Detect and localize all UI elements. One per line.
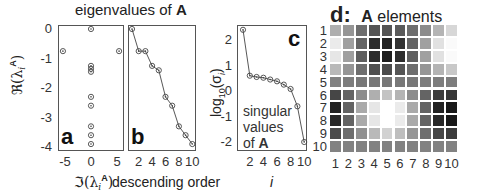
heatmap-cell: [395, 141, 406, 152]
heatmap-cell: [407, 64, 418, 75]
heatmap-cell: [407, 77, 418, 88]
data-line: [132, 29, 192, 144]
heatmap-cell: [407, 102, 418, 113]
heatmap-cell: [446, 128, 457, 139]
heatmap-col-label: 10: [444, 157, 458, 170]
heatmap-col-label: 2: [345, 157, 352, 170]
heatmap-col-label: 9: [435, 157, 442, 170]
heatmap-cell: [382, 25, 393, 36]
heatmap-cell: [420, 141, 431, 152]
heatmap-cell: [330, 102, 341, 113]
heatmap-cell: [433, 64, 444, 75]
heatmap-cell: [407, 128, 418, 139]
heatmap-cell: [343, 77, 354, 88]
heatmap-cell: [395, 102, 406, 113]
heatmap-cell: [395, 38, 406, 49]
heatmap-cell: [356, 141, 367, 152]
heatmap-cell: [382, 38, 393, 49]
heatmap-cell: [433, 25, 444, 36]
heatmap-cell: [343, 51, 354, 62]
heatmap-cell: [382, 102, 393, 113]
heatmap-cell: [407, 38, 418, 49]
heatmap-cell: [433, 128, 444, 139]
heatmap-cell: [446, 25, 457, 36]
heatmap-cell: [420, 115, 431, 126]
heatmap-row-label: 10: [313, 140, 327, 153]
heatmap-cell: [433, 90, 444, 101]
heatmap-cell: [343, 128, 354, 139]
heatmap-cell: [382, 64, 393, 75]
heatmap-cell: [395, 77, 406, 88]
heatmap-cell: [433, 38, 444, 49]
heatmap-cell: [369, 51, 380, 62]
heatmap-cell: [343, 115, 354, 126]
heatmap-cell: [395, 115, 406, 126]
heatmap-cell: [356, 77, 367, 88]
heatmap-cell: [446, 102, 457, 113]
heatmap: [329, 24, 458, 153]
heatmap-cell: [356, 38, 367, 49]
heatmap-cell: [356, 25, 367, 36]
heatmap-col-label: 5: [383, 157, 390, 170]
heatmap-cell: [395, 128, 406, 139]
heatmap-cell: [420, 77, 431, 88]
heatmap-cell: [407, 115, 418, 126]
heatmap-cell: [330, 128, 341, 139]
heatmap-cell: [369, 90, 380, 101]
heatmap-cell: [356, 102, 367, 113]
data-line: [243, 30, 304, 142]
heatmap-cell: [382, 90, 393, 101]
heatmap-cell: [343, 25, 354, 36]
heatmap-col-label: 7: [409, 157, 416, 170]
heatmap-cell: [369, 38, 380, 49]
heatmap-cell: [356, 115, 367, 126]
heatmap-cell: [433, 77, 444, 88]
heatmap-cell: [330, 51, 341, 62]
heatmap-cell: [420, 102, 431, 113]
heatmap-cell: [446, 90, 457, 101]
heatmap-cell: [369, 77, 380, 88]
panel-d-title-bold: A: [361, 8, 373, 25]
heatmap-cell: [395, 25, 406, 36]
heatmap-cell: [343, 90, 354, 101]
heatmap-cell: [420, 128, 431, 139]
heatmap-cell: [369, 25, 380, 36]
heatmap-cell: [330, 115, 341, 126]
heatmap-cell: [369, 128, 380, 139]
heatmap-cell: [382, 141, 393, 152]
heatmap-cell: [369, 102, 380, 113]
heatmap-cell: [420, 51, 431, 62]
heatmap-cell: [330, 25, 341, 36]
heatmap-cell: [382, 128, 393, 139]
heatmap-cell: [356, 51, 367, 62]
heatmap-cell: [433, 115, 444, 126]
heatmap-cell: [446, 141, 457, 152]
heatmap-cell: [420, 64, 431, 75]
heatmap-cell: [395, 90, 406, 101]
heatmap-cell: [369, 115, 380, 126]
heatmap-cell: [446, 51, 457, 62]
heatmap-cell: [330, 141, 341, 152]
heatmap-cell: [420, 38, 431, 49]
heatmap-cell: [356, 128, 367, 139]
heatmap-cell: [407, 25, 418, 36]
heatmap-cell: [420, 90, 431, 101]
heatmap-cell: [382, 115, 393, 126]
heatmap-cell: [369, 64, 380, 75]
heatmap-col-label: 8: [422, 157, 429, 170]
heatmap-cell: [330, 38, 341, 49]
heatmap-cell: [343, 64, 354, 75]
heatmap-cell: [433, 51, 444, 62]
heatmap-cell: [407, 90, 418, 101]
heatmap-cell: [407, 51, 418, 62]
heatmap-cell: [433, 141, 444, 152]
panel-d-title-rest: elements: [373, 8, 442, 25]
heatmap-cell: [343, 38, 354, 49]
heatmap-cell: [330, 90, 341, 101]
heatmap-col-label: 1: [332, 157, 339, 170]
heatmap-cell: [395, 51, 406, 62]
heatmap-cell: [446, 64, 457, 75]
heatmap-cell: [382, 77, 393, 88]
heatmap-cell: [395, 64, 406, 75]
heatmap-cell: [407, 141, 418, 152]
